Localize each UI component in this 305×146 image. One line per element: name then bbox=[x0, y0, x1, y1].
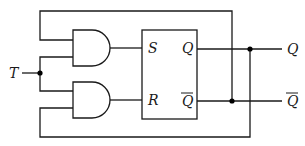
t-input-label: T bbox=[9, 65, 20, 81]
q-junction-dot bbox=[247, 46, 252, 51]
and-gate-upper bbox=[73, 30, 110, 66]
t-branch-lower bbox=[40, 73, 73, 91]
t-flipflop-diagram: S R Q Q Q Q T bbox=[0, 0, 305, 146]
t-branch-upper bbox=[40, 57, 73, 73]
qbar-output-label: Q bbox=[287, 93, 299, 109]
q-output-label: Q bbox=[287, 41, 299, 57]
qbar-label-inner: Q bbox=[182, 93, 194, 109]
feedback-wire-qbar bbox=[40, 11, 232, 101]
r-label: R bbox=[147, 92, 159, 108]
and-gate-lower bbox=[73, 82, 110, 118]
q-label-inner: Q bbox=[182, 40, 194, 56]
qbar-junction-dot bbox=[229, 98, 234, 103]
s-label: S bbox=[148, 40, 158, 56]
t-junction-dot bbox=[37, 70, 42, 75]
